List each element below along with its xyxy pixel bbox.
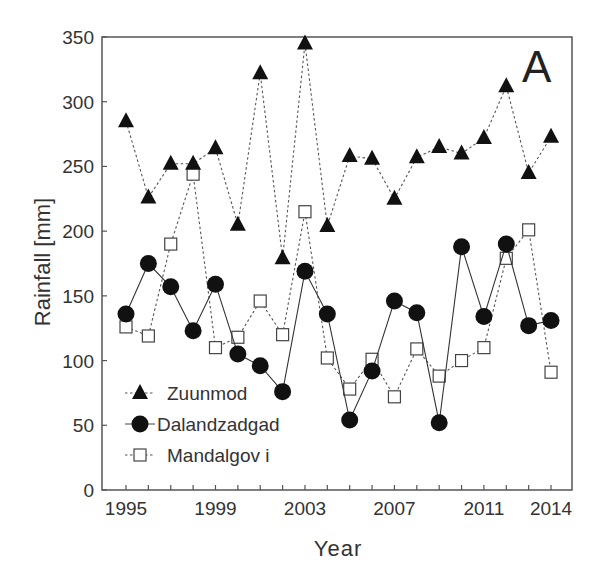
data-point — [475, 308, 492, 325]
y-tick-label: 100 — [62, 351, 94, 372]
legend-label: Dalandzadgad — [157, 414, 280, 435]
panel-letter: A — [522, 42, 552, 91]
circle-marker-icon — [132, 416, 149, 433]
data-point — [543, 312, 560, 329]
y-tick-label: 200 — [62, 221, 94, 242]
data-point — [364, 150, 380, 165]
data-point — [140, 255, 157, 272]
y-axis: 050100150200250300350 — [62, 27, 107, 501]
data-point — [453, 238, 470, 255]
data-point — [120, 321, 132, 333]
legend-label: Mandalgov i — [167, 445, 269, 466]
data-point — [118, 112, 134, 127]
x-tick-label: 1999 — [194, 498, 236, 519]
data-point — [433, 370, 445, 382]
data-point — [521, 164, 537, 179]
series-zuunmod — [118, 34, 559, 264]
data-point — [498, 77, 514, 92]
y-tick-label: 300 — [62, 92, 94, 113]
data-point — [431, 414, 448, 431]
data-point — [388, 391, 400, 403]
data-point — [163, 155, 179, 170]
data-point — [187, 168, 199, 180]
data-point — [341, 412, 358, 429]
data-point — [342, 147, 358, 162]
data-point — [408, 304, 425, 321]
legend-item-dalandzadgad: Dalandzadgad — [125, 414, 280, 435]
legend-item-mandalgovi: Mandalgov i — [125, 445, 269, 466]
x-tick-label: 2007 — [373, 498, 415, 519]
data-point — [409, 148, 425, 163]
rainfall-chart: 050100150200250300350 199519992003200720… — [0, 0, 605, 585]
data-point — [543, 128, 559, 143]
data-point — [456, 355, 468, 367]
data-point — [431, 138, 447, 153]
data-point — [275, 249, 291, 264]
data-point — [162, 278, 179, 295]
data-point — [478, 342, 490, 354]
triangle-marker-icon — [132, 384, 148, 399]
y-axis-title: Rainfall [mm] — [30, 198, 55, 326]
x-axis-title: Year — [314, 536, 362, 561]
data-point — [498, 236, 515, 253]
legend: ZuunmodDalandzadgadMandalgov i — [125, 383, 280, 466]
legend-item-zuunmod: Zuunmod — [125, 383, 247, 404]
series-line — [126, 174, 551, 397]
data-point — [274, 383, 291, 400]
legend-label: Zuunmod — [167, 383, 247, 404]
data-point — [230, 216, 246, 231]
series-layer — [118, 34, 560, 431]
data-point — [319, 217, 335, 232]
x-tick-label: 2011 — [463, 498, 504, 519]
data-point — [185, 155, 201, 170]
data-point — [165, 238, 177, 250]
data-point — [277, 329, 289, 341]
x-tick-label: 1995 — [105, 498, 147, 519]
data-point — [207, 276, 224, 293]
data-point — [207, 139, 223, 154]
data-point — [344, 383, 356, 395]
data-point — [118, 305, 135, 322]
series-line — [126, 44, 551, 259]
data-point — [142, 330, 154, 342]
data-point — [296, 263, 313, 280]
data-point — [386, 293, 403, 310]
x-tick-label: 2003 — [284, 498, 326, 519]
data-point — [209, 342, 221, 354]
data-point — [520, 317, 537, 334]
y-tick-label: 150 — [62, 286, 94, 307]
y-tick-label: 350 — [62, 27, 94, 48]
y-tick-label: 0 — [83, 480, 94, 501]
data-point — [299, 206, 311, 218]
data-point — [140, 188, 156, 203]
y-tick-label: 50 — [73, 415, 94, 436]
square-marker-icon — [134, 449, 146, 461]
data-point — [229, 346, 246, 363]
x-tick-label: 2014 — [530, 498, 573, 519]
data-point — [252, 64, 268, 79]
data-point — [454, 144, 470, 159]
data-point — [364, 362, 381, 379]
data-point — [411, 343, 423, 355]
data-point — [545, 366, 557, 378]
data-point — [185, 322, 202, 339]
data-point — [321, 352, 333, 364]
data-point — [252, 357, 269, 374]
y-tick-label: 250 — [62, 156, 94, 177]
data-point — [476, 129, 492, 144]
data-point — [319, 305, 336, 322]
data-point — [386, 190, 402, 205]
data-point — [254, 295, 266, 307]
data-point — [523, 224, 535, 236]
